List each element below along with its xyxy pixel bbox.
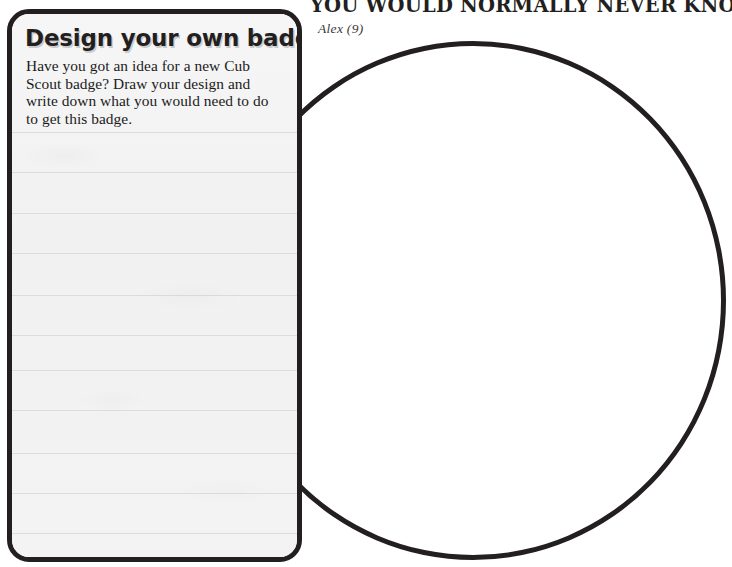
rule-line bbox=[12, 253, 297, 254]
panel-body-text: Have you got an idea for a new Cub Scout… bbox=[26, 57, 283, 127]
rule-line bbox=[12, 453, 297, 454]
rule-line bbox=[12, 295, 297, 296]
quote-block: YOU WOULD NORMALLY NEVER KNOW.’ Alex (9) bbox=[310, 0, 730, 37]
rule-line bbox=[12, 132, 297, 133]
design-badge-panel: Design your own badge Have you got an id… bbox=[7, 9, 302, 562]
rule-line bbox=[12, 493, 297, 494]
rule-line bbox=[12, 213, 297, 214]
rule-line bbox=[12, 370, 297, 371]
quote-attribution: Alex (9) bbox=[318, 21, 730, 37]
quote-title: YOU WOULD NORMALLY NEVER KNOW.’ bbox=[310, 0, 730, 16]
rule-line bbox=[12, 335, 297, 336]
panel-heading: Design your own badge bbox=[25, 25, 297, 51]
rule-line bbox=[12, 533, 297, 534]
rule-line bbox=[12, 172, 297, 173]
panel-background: Design your own badge Have you got an id… bbox=[12, 14, 297, 557]
page-root: YOU WOULD NORMALLY NEVER KNOW.’ Alex (9)… bbox=[0, 0, 732, 567]
rule-line bbox=[12, 410, 297, 411]
